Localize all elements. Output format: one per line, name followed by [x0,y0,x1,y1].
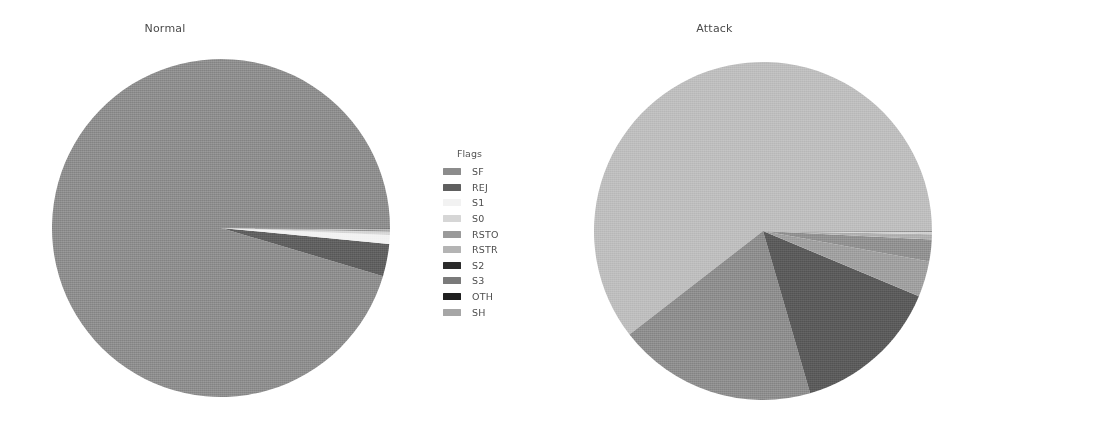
legend-swatch-sh [443,309,461,316]
legend-swatch-s1 [443,199,461,206]
legend-item-s2[interactable]: S2 [443,258,499,274]
legend-label-sh: SH [472,307,486,318]
legend-swatch-s0 [443,215,461,222]
legend-label-sf: SF [472,166,484,177]
legend-swatch-s3 [443,277,461,284]
figure-canvas: Normal Flags SFREJS1S0RSTORSTRS2S3OTHSH … [0,0,1093,438]
page-title-attack: Attack [441,22,988,35]
legend-label-s3: S3 [472,275,484,286]
legend-label-s0: S0 [472,213,484,224]
legend-item-sf[interactable]: SF [443,164,499,180]
legend-item-s3[interactable]: S3 [443,273,499,289]
legend-swatch-s2 [443,262,461,269]
pie-chart-attack [593,61,933,401]
pie-wedge-group-attack [594,62,932,400]
legend-swatch-rej [443,184,461,191]
panel-normal: Normal Flags SFREJS1S0RSTORSTRS2S3OTHSH [0,0,546,438]
legend-items-normal: SFREJS1S0RSTORSTRS2S3OTHSH [443,164,499,320]
legend-label-rej: REJ [472,182,488,193]
page-title-normal: Normal [0,22,438,35]
pie-svg-attack [593,61,933,401]
legend-swatch-oth [443,293,461,300]
pie-svg-normal [51,58,391,398]
legend-swatch-rsto [443,231,461,238]
legend-item-s1[interactable]: S1 [443,195,499,211]
legend-label-s2: S2 [472,260,484,271]
legend-swatch-sf [443,168,461,175]
pie-chart-normal [51,58,391,398]
legend-label-s1: S1 [472,197,484,208]
legend-label-rstr: RSTR [472,244,498,255]
legend-item-rej[interactable]: REJ [443,180,499,196]
legend-item-rstr[interactable]: RSTR [443,242,499,258]
legend-item-rsto[interactable]: RSTO [443,226,499,242]
legend-label-oth: OTH [472,291,493,302]
legend-title-normal: Flags [457,148,499,159]
legend-label-rsto: RSTO [472,229,499,240]
legend-item-s0[interactable]: S0 [443,211,499,227]
panel-attack: Attack Flags S0SFREJRSTRRSTOSHRSTOS0OTHS… [546,0,1093,438]
legend-item-oth[interactable]: OTH [443,289,499,305]
pie-wedge-group-normal [52,59,390,397]
legend-normal: Flags SFREJS1S0RSTORSTRS2S3OTHSH [443,148,499,320]
legend-item-sh[interactable]: SH [443,304,499,320]
legend-swatch-rstr [443,246,461,253]
